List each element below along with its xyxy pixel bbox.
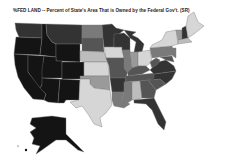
state-SD — [82, 38, 104, 52]
state-WA — [15, 23, 42, 38]
state-OH — [138, 50, 152, 66]
state-NY — [150, 30, 178, 48]
state-NE — [80, 51, 108, 62]
state-NJ — [172, 48, 176, 58]
state-IA — [104, 47, 124, 58]
state-ND — [82, 25, 103, 38]
state-FL — [134, 98, 166, 130]
state-ME — [186, 12, 204, 38]
state-KS — [84, 62, 109, 76]
state-WY — [56, 44, 80, 62]
state-AK-island-2 — [17, 145, 18, 146]
state-OR — [14, 37, 42, 55]
state-AK-island — [25, 149, 27, 151]
state-AR — [110, 78, 126, 92]
us-choropleth-map — [0, 0, 238, 163]
state-NM — [58, 79, 80, 103]
state-AK — [30, 116, 84, 154]
state-MT — [46, 24, 82, 44]
